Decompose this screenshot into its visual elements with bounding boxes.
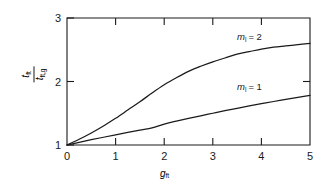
annotation-ml-2-var: m: [237, 31, 245, 42]
y-tick-label-1: 1: [55, 139, 61, 151]
x-tick-label-2: 2: [161, 150, 167, 162]
x-tick-label-4: 4: [258, 150, 264, 162]
y-tick-label-3: 3: [55, 12, 61, 24]
curve-ml-2: [67, 43, 310, 145]
y-den-sub: ft,g: [39, 68, 46, 77]
x-axis-label: gft: [0, 163, 329, 181]
chart-figure: 3 2 1 0 1 2 3 4 5 ml= 2 ml= 1: [0, 0, 329, 186]
y-axis-numerator: tft: [22, 69, 34, 79]
x-tick-label-0: 0: [64, 150, 70, 162]
annotation-ml-1-tail: = 1: [248, 81, 261, 92]
y-axis-denominator: tft,g: [34, 66, 46, 82]
x-axis-label-text: gft: [160, 168, 169, 179]
x-tick-label-3: 3: [210, 150, 216, 162]
x-tick-label-5: 5: [307, 150, 313, 162]
y-axis-label: tft tft,g: [12, 50, 56, 98]
annotation-ml-1-var: m: [237, 81, 245, 92]
y-num-sub: ft: [25, 71, 32, 75]
x-tick-labels: 0 1 2 3 4 5: [64, 150, 313, 162]
x-label-sub: ft: [165, 172, 169, 179]
data-series-group: [67, 43, 310, 145]
curve-annotations: ml= 2 ml= 1: [237, 31, 262, 93]
y-axis-fraction: tft tft,g: [22, 66, 47, 82]
annotation-ml-1-sub: l: [245, 86, 247, 93]
curve-ml-1: [67, 95, 310, 145]
annotation-ml-2-tail: = 2: [248, 31, 261, 42]
y-axis-label-rotated: tft tft,g: [22, 66, 47, 82]
annotation-ml-2: ml= 2: [237, 31, 262, 43]
annotation-ml-2-sub: l: [245, 36, 247, 43]
annotation-ml-1: ml= 1: [237, 81, 262, 93]
x-tick-label-1: 1: [113, 150, 119, 162]
